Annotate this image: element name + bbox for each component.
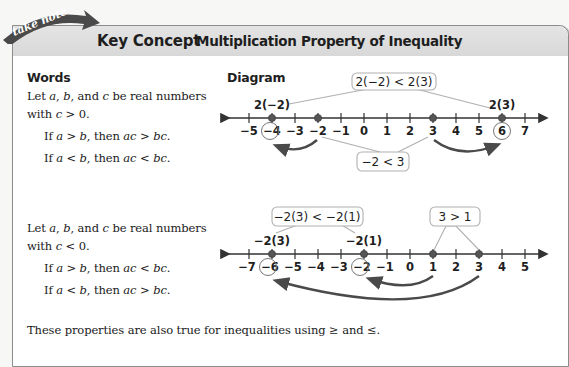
- svg-text:−7: −7: [238, 260, 256, 274]
- svg-text:3: 3: [475, 260, 483, 274]
- arrow-3-to-6: [434, 140, 497, 151]
- svg-text:−5: −5: [240, 124, 258, 138]
- arrow-neg2-to-neg4: [277, 140, 317, 149]
- point-label-2-neg2: 2(−2): [254, 98, 290, 112]
- svg-text:5: 5: [475, 124, 483, 138]
- svg-text:−3: −3: [286, 124, 304, 138]
- point-label-neg2-3: −2(3): [254, 234, 290, 248]
- svg-text:4: 4: [498, 260, 506, 274]
- svg-text:2: 2: [452, 260, 460, 274]
- number-line-2: −7 −6 −5 −4 −3 −2 −1 0 1 2 3 4 5 −2(3) −…: [228, 207, 546, 299]
- svg-text:1: 1: [383, 124, 391, 138]
- svg-text:−5: −5: [284, 260, 302, 274]
- callout-top-1: 2(−2) < 2(3): [355, 75, 432, 89]
- svg-text:0: 0: [406, 260, 414, 274]
- svg-text:−1: −1: [376, 260, 394, 274]
- svg-text:0: 0: [360, 124, 368, 138]
- svg-text:−2: −2: [309, 124, 327, 138]
- point-label-2-3: 2(3): [489, 98, 516, 112]
- svg-text:7: 7: [521, 124, 529, 138]
- point-label-neg2-1: −2(1): [346, 234, 382, 248]
- callout-top-left-2: −2(3) < −2(1): [273, 210, 360, 224]
- svg-text:3: 3: [429, 124, 437, 138]
- arrow-1-to-neg2: [370, 276, 433, 285]
- svg-text:2: 2: [406, 124, 414, 138]
- callout-top-right-2: 3 > 1: [439, 210, 472, 224]
- svg-text:4: 4: [452, 124, 460, 138]
- svg-text:6: 6: [498, 124, 506, 138]
- callout-bottom-1: −2 < 3: [361, 155, 404, 169]
- arrow-3-to-neg6: [277, 276, 479, 299]
- svg-text:−4: −4: [307, 260, 325, 274]
- svg-text:1: 1: [429, 260, 437, 274]
- svg-text:5: 5: [521, 260, 529, 274]
- svg-text:−1: −1: [332, 124, 350, 138]
- svg-text:−3: −3: [330, 260, 348, 274]
- number-line-1: −5 −4 −3 −2 −1 0 1 2 3 4 5 6 7 2(−2) 2(3…: [228, 73, 546, 171]
